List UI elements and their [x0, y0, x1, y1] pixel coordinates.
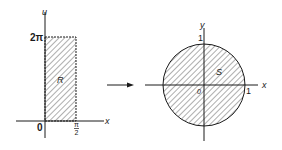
- left-pi-over-2-label: π 2: [74, 121, 79, 136]
- left-u-label: u: [42, 7, 47, 17]
- left-2pi-label: 2π: [30, 32, 44, 43]
- left-origin-label: 0: [37, 122, 43, 133]
- pi-numerator: π: [74, 121, 79, 128]
- right-x-label: x: [261, 80, 267, 90]
- transformation-diagram: u 2π R 0 π 2 x y 1 S 0 1 x: [0, 0, 282, 150]
- right-panel: y 1 S 0 1 x: [145, 20, 267, 141]
- right-top-1-label: 1: [198, 33, 203, 43]
- left-x-label: x: [104, 116, 110, 126]
- arrowhead-icon: [127, 83, 134, 88]
- right-s-label: S: [216, 67, 222, 77]
- left-panel: u 2π R 0 π 2 x: [16, 7, 110, 138]
- right-right-1-label: 1: [246, 86, 251, 96]
- right-origin-label: 0: [197, 88, 201, 95]
- left-r-label: R: [57, 75, 64, 85]
- right-y-label: y: [199, 20, 205, 30]
- pi-denominator: 2: [75, 129, 79, 136]
- mapping-arrow: [107, 83, 134, 88]
